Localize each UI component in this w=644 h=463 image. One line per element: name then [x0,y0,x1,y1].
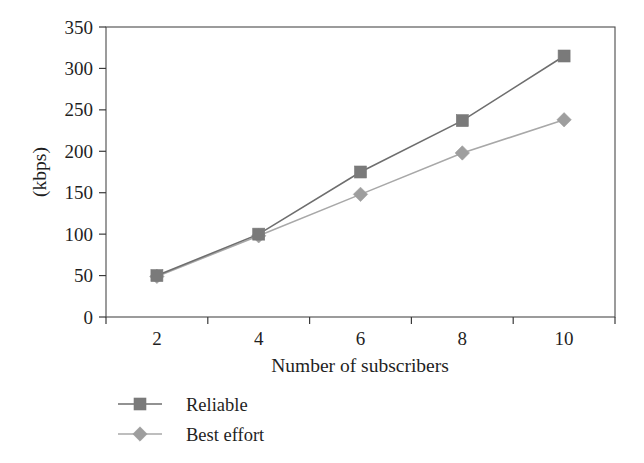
data-point-square-marker [558,50,570,62]
x-axis-tick-labels: 246810 [152,328,573,349]
line-chart: 050100150200250300350 246810 (kbps) Numb… [0,0,644,463]
legend-item-reliable[interactable]: Reliable [118,395,248,415]
y-tick-label: 350 [65,17,94,38]
data-point-diamond-marker [353,187,367,201]
y-tick-label: 200 [65,141,94,162]
x-axis-ticks [106,317,615,324]
legend-item-best-effort[interactable]: Best effort [118,425,265,445]
data-series-group [150,50,572,284]
y-axis-ticks [99,27,106,317]
data-point-square-marker [151,270,163,282]
series-reliable [151,50,570,282]
data-point-diamond-marker [133,427,147,441]
chart-legend: ReliableBest effort [118,395,265,445]
data-point-square-marker [355,166,367,178]
data-point-diamond-marker [455,146,469,160]
chart-figure: 050100150200250300350 246810 (kbps) Numb… [0,0,644,463]
legend-label: Reliable [186,395,248,415]
x-axis-title: Number of subscribers [271,355,449,376]
data-point-square-marker [253,228,265,240]
y-tick-label: 100 [65,224,94,245]
legend-label: Best effort [186,425,265,445]
data-point-square-marker [456,115,468,127]
y-axis-tick-labels: 050100150200250300350 [65,17,94,328]
data-point-square-marker [134,398,146,410]
y-tick-label: 150 [65,182,94,203]
x-tick-label: 2 [152,328,162,349]
x-tick-label: 8 [458,328,468,349]
y-tick-label: 250 [65,99,94,120]
x-tick-label: 4 [254,328,264,349]
y-tick-label: 50 [74,265,93,286]
x-tick-label: 6 [356,328,366,349]
y-tick-label: 0 [84,307,94,328]
series-best-effort [150,113,572,284]
y-tick-label: 300 [65,58,94,79]
x-tick-label: 10 [555,328,574,349]
y-axis-title: (kbps) [29,147,51,197]
data-point-diamond-marker [557,113,571,127]
